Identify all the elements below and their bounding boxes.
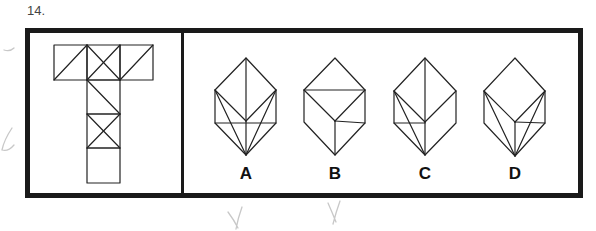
cube-net — [54, 45, 153, 183]
option-d-label[interactable]: D — [500, 164, 530, 184]
option-c-label[interactable]: C — [410, 164, 440, 184]
pencil-marks — [2, 48, 340, 229]
option-c-cube[interactable] — [394, 58, 456, 155]
option-b-cube[interactable] — [304, 58, 365, 155]
option-d-cube[interactable] — [484, 58, 545, 156]
figures-canvas — [0, 0, 596, 231]
option-a-cube[interactable] — [215, 58, 276, 155]
option-b-label[interactable]: B — [320, 164, 350, 184]
option-a-label[interactable]: A — [231, 164, 261, 184]
